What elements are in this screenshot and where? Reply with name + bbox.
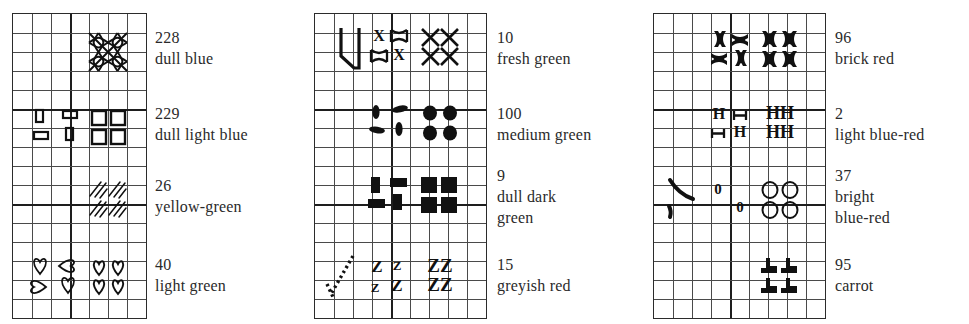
legend-number: 95 (835, 255, 874, 275)
legend-name-line2: blue-red (835, 207, 890, 228)
symbol-bar-d (393, 194, 403, 211)
grid-line-horizontal (654, 299, 825, 300)
symbol-open-square-b (62, 110, 78, 119)
legend-number: 26 (155, 176, 242, 196)
legend-entry-26: 26 yellow-green (155, 176, 242, 217)
legend-number: 40 (155, 255, 226, 275)
legend-name: greyish red (497, 275, 571, 296)
symbol-square-block (421, 177, 459, 215)
legend-number: 100 (497, 104, 591, 124)
symbol-bar-a (371, 177, 381, 194)
legend-name: brick red (835, 48, 894, 69)
legend-entry-100: 100 medium green (497, 104, 591, 145)
legend-entry-15: 15 greyish red (497, 255, 571, 296)
legend-number: 37 (835, 166, 890, 186)
legend-entry-40: 40 light green (155, 255, 226, 296)
symbol-flower-x-b (731, 32, 749, 48)
legend-entry-10: 10 fresh green (497, 28, 571, 69)
legend-name: light blue-red (835, 124, 924, 145)
grid-line-horizontal (13, 223, 146, 224)
grid-line-horizontal (654, 90, 825, 91)
symbol-x-block (421, 28, 459, 66)
symbol-x-c (370, 49, 388, 63)
legend-number: 228 (155, 28, 213, 48)
symbol-heart-c (30, 280, 47, 294)
symbol-h-c (710, 128, 726, 139)
symbol-curve-stroke (667, 178, 697, 218)
legend-name: dull light blue (155, 124, 248, 145)
symbol-tee-block (761, 258, 799, 296)
grid-line-horizontal (13, 242, 146, 243)
legend-number: 9 (497, 166, 556, 186)
legend-number: 15 (497, 255, 571, 275)
legend-entry-228: 228 dull blue (155, 28, 213, 69)
legend-entry-9: 9 dull dark green (497, 166, 556, 228)
symbol-open-square-a (35, 109, 44, 123)
symbol-open-square-d (65, 127, 74, 141)
symbol-z-a: Z (369, 258, 385, 275)
symbol-oval-b (391, 104, 409, 114)
symbol-dot-block (422, 105, 458, 141)
symbol-z-d: Z (389, 277, 405, 294)
symbol-z-c: Z (368, 281, 382, 294)
symbol-z-block: ZZZZ (421, 256, 459, 294)
legend-name: dull blue (155, 48, 213, 69)
panel-1: 228 dull blue 229 dull light blue 26 yel… (0, 0, 320, 324)
legend-name: carrot (835, 275, 874, 296)
legend-name: dull dark (497, 186, 556, 207)
symbol-dotted-diagonal (324, 254, 356, 300)
grid-line-horizontal (315, 90, 486, 91)
symbol-flower-x-block (761, 30, 799, 68)
grid-line-horizontal (654, 147, 825, 148)
legend-number: 2 (835, 104, 924, 124)
symbol-u-hook (338, 26, 364, 70)
symbol-flower-x-a (712, 30, 728, 48)
grid-line-horizontal (654, 71, 825, 72)
legend-entry-229: 229 dull light blue (155, 104, 248, 145)
grid-line-horizontal (315, 147, 486, 148)
legend-name: fresh green (497, 48, 571, 69)
legend-number: 10 (497, 28, 571, 48)
symbol-flower-x-d (733, 49, 749, 67)
grid-line-horizontal (654, 280, 825, 281)
symbol-bar-b (390, 178, 408, 188)
symbol-open-square-c (33, 131, 49, 140)
symbol-x-b (390, 29, 408, 43)
legend-name: yellow-green (155, 196, 242, 217)
symbol-hatch-slash-block (89, 180, 127, 218)
symbol-key-sheet: 228 dull blue 229 dull light blue 26 yel… (0, 0, 969, 324)
grid-line-horizontal (654, 166, 825, 167)
legend-entry-37: 37 bright blue-red (835, 166, 890, 228)
symbol-oval-a (371, 104, 381, 120)
symbol-heart-d (61, 277, 75, 294)
legend-entry-96: 96 brick red (835, 28, 894, 69)
legend-entry-2: 2 light blue-red (835, 104, 924, 145)
grid-line-horizontal (654, 223, 825, 224)
symbol-heart-b (58, 259, 75, 273)
symbol-h-d: H (732, 124, 748, 140)
grid-line-horizontal (315, 71, 486, 72)
grid-line-horizontal (13, 90, 146, 91)
grid-line-horizontal (13, 147, 146, 148)
symbol-heart-a (33, 258, 47, 275)
legend-number: 96 (835, 28, 894, 48)
grid-line-horizontal (315, 223, 486, 224)
symbol-x-d: X (391, 47, 407, 63)
legend-name: bright (835, 186, 890, 207)
grid-line-horizontal (654, 261, 825, 262)
symbol-open-square-block (91, 110, 126, 145)
grid-line-horizontal (315, 166, 486, 167)
symbol-o-b: 0 (733, 200, 747, 215)
symbol-o-block (761, 181, 799, 219)
symbol-x-a: X (371, 28, 387, 44)
grid-line-horizontal (654, 242, 825, 243)
legend-name: medium green (497, 124, 591, 145)
legend-name-line2: green (497, 207, 556, 228)
symbol-h-block: HHHH (760, 104, 800, 142)
symbol-oval-c (368, 125, 386, 135)
legend-number: 229 (155, 104, 248, 124)
symbol-o-a: 0 (711, 182, 725, 197)
symbol-h-a: H (711, 106, 727, 122)
symbol-z-b: Z (390, 259, 404, 272)
symbol-bar-c (368, 199, 386, 209)
